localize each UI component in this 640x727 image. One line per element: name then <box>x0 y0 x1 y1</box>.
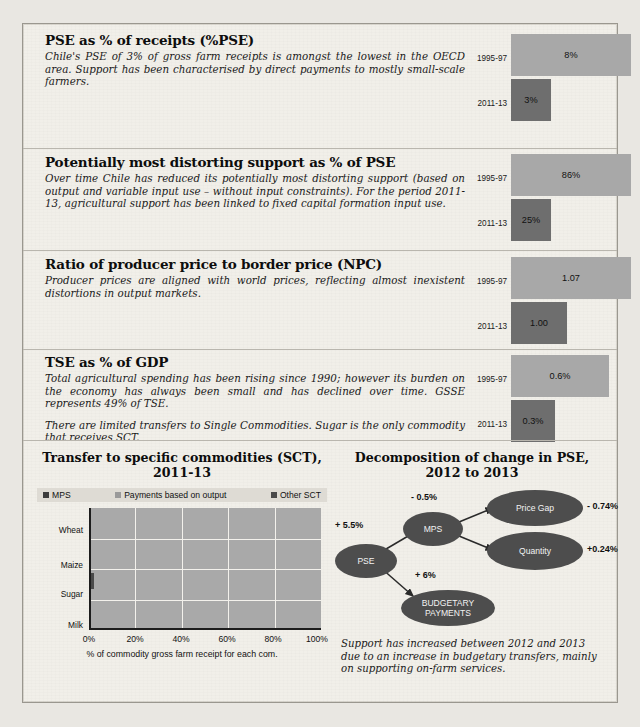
edge-label-quantity: +0.24% <box>587 544 618 554</box>
sct-ytick-milk: Milk <box>37 620 83 630</box>
gridline-horizontal <box>89 600 321 601</box>
gridline-horizontal <box>89 569 321 570</box>
decomposition-footnote: Support has increased between 2012 and 2… <box>341 638 607 676</box>
decomposition-diagram: PSE MPS BUDGETARY PAYMENTS Price Gap Qua… <box>335 488 609 638</box>
edge-label-to-mps: - 0.5% <box>411 492 437 502</box>
node-pse: PSE <box>335 544 397 578</box>
divider-4 <box>23 440 617 441</box>
pse-bar-2011: 3% <box>511 79 551 121</box>
npc-bar-value-1995: 1.07 <box>511 273 631 283</box>
distorting-bar-2011: 25% <box>511 199 551 241</box>
tse-title: TSE as % of GDP <box>45 354 465 370</box>
page-title: PSE as % of receipts (%PSE) <box>45 32 465 48</box>
tse-bar-chart: 1995-97 0.6% 2011-13 0.3% <box>465 354 625 459</box>
edge-label-pse-total: + 5.5% <box>335 520 363 530</box>
distorting-bar-chart: 1995-97 86% 2011-13 25% <box>465 154 625 254</box>
tse-text: TSE as % of GDP Total agricultural spend… <box>45 354 465 444</box>
sct-legend: MPS Payments based on output Other SCT <box>37 488 327 502</box>
sct-xtick-80: 80% <box>264 634 281 644</box>
tse-bar-label-2011: 2011-13 <box>465 420 507 429</box>
sct-xtick-60: 60% <box>218 634 235 644</box>
pse-description: Chile's PSE of 3% of gross farm receipts… <box>45 50 465 88</box>
node-mps: MPS <box>403 512 463 546</box>
sct-xtick-100: 100% <box>306 634 328 644</box>
distorting-bar-label-2011: 2011-13 <box>465 219 507 228</box>
pse-bar-1995: 8% <box>511 34 631 76</box>
sct-x-axis <box>89 628 321 630</box>
legend-label-mps: MPS <box>52 490 71 500</box>
legend-item-mps: MPS <box>43 490 71 500</box>
sct-x-axis-title: % of commodity gross farm receipt for ea… <box>37 649 327 659</box>
edge-label-price-gap: - 0.74% <box>587 501 618 511</box>
pse-text: PSE as % of receipts (%PSE) Chile's PSE … <box>45 32 465 88</box>
indicator-block-distorting: Potentially most distorting support as %… <box>23 154 617 254</box>
npc-text: Ratio of producer price to border price … <box>45 256 465 299</box>
distorting-title: Potentially most distorting support as %… <box>45 154 465 170</box>
tse-bar-label-1995: 1995-97 <box>465 375 507 384</box>
indicator-block-npc: Ratio of producer price to border price … <box>23 256 617 356</box>
legend-swatch-payments <box>115 492 121 498</box>
legend-item-payments: Payments based on output <box>115 490 226 500</box>
edge-label-to-budget: + 6% <box>415 570 436 580</box>
distorting-text: Potentially most distorting support as %… <box>45 154 465 210</box>
node-budgetary-payments: BUDGETARY PAYMENTS <box>401 590 495 626</box>
npc-bar-chart: 1995-97 1.07 2011-13 1.00 <box>465 256 625 356</box>
distorting-bar-value-1995: 86% <box>511 170 631 180</box>
npc-title: Ratio of producer price to border price … <box>45 256 465 272</box>
tse-bar-value-2011: 0.3% <box>511 416 555 426</box>
tse-bar-value-1995: 0.6% <box>511 371 609 381</box>
npc-description: Producer prices are aligned with world p… <box>45 274 465 299</box>
divider-2 <box>23 250 617 251</box>
sct-ytick-wheat: Wheat <box>37 525 83 535</box>
decomposition-title-line1: Decomposition of change in PSE, <box>335 450 609 465</box>
npc-bar-label-1995: 1995-97 <box>465 277 507 286</box>
tse-bar-1995: 0.6% <box>511 355 609 397</box>
npc-bar-label-2011: 2011-13 <box>465 322 507 331</box>
decomposition-title-line2: 2012 to 2013 <box>335 465 609 480</box>
sct-panel: Transfer to specific commodities (SCT), … <box>37 450 327 659</box>
sct-title-line1: Transfer to specific commodities (SCT), <box>37 450 327 465</box>
indicator-block-pse: PSE as % of receipts (%PSE) Chile's PSE … <box>23 32 617 142</box>
pse-bar-value-2011: 3% <box>511 95 551 105</box>
gridline-horizontal <box>89 539 321 540</box>
pse-bar-chart: 1995-97 8% 2011-13 3% <box>465 32 625 142</box>
legend-label-payments: Payments based on output <box>124 490 226 500</box>
divider-3 <box>23 349 617 350</box>
sct-plot-area <box>89 508 321 630</box>
distorting-bar-1995: 86% <box>511 154 631 196</box>
fact-sheet-page: PSE as % of receipts (%PSE) Chile's PSE … <box>22 23 618 703</box>
npc-bar-1995: 1.07 <box>511 257 631 299</box>
sct-xtick-40: 40% <box>172 634 189 644</box>
sct-title-line2: 2011-13 <box>37 465 327 480</box>
legend-label-other: Other SCT <box>280 490 321 500</box>
pse-bar-label-2011: 2011-13 <box>465 99 507 108</box>
distorting-bar-value-2011: 25% <box>511 215 551 225</box>
node-quantity: Quantity <box>487 532 583 570</box>
decomposition-panel: Decomposition of change in PSE, 2012 to … <box>335 450 609 638</box>
npc-bar-value-2011: 1.00 <box>511 318 567 328</box>
sct-xtick-0: 0% <box>83 634 95 644</box>
distorting-bar-label-1995: 1995-97 <box>465 174 507 183</box>
distorting-description: Over time Chile has reduced its potentia… <box>45 172 465 210</box>
indicator-block-tse: TSE as % of GDP Total agricultural spend… <box>23 354 617 459</box>
legend-swatch-other <box>271 492 277 498</box>
sct-chart: Wheat Maize Sugar Milk 0% 20% 40% 60% 80… <box>37 508 327 648</box>
sct-ytick-maize: Maize <box>37 560 83 570</box>
pse-bar-value-1995: 8% <box>511 50 631 60</box>
legend-swatch-mps <box>43 492 49 498</box>
sct-y-axis <box>89 508 91 630</box>
npc-bar-2011: 1.00 <box>511 302 567 344</box>
divider-1 <box>23 148 617 149</box>
sct-ytick-sugar: Sugar <box>37 589 83 599</box>
tse-bar-2011: 0.3% <box>511 400 555 442</box>
legend-item-other: Other SCT <box>271 490 321 500</box>
node-price-gap: Price Gap <box>487 490 583 526</box>
sct-xtick-20: 20% <box>126 634 143 644</box>
pse-bar-label-1995: 1995-97 <box>465 54 507 63</box>
tse-description: Total agricultural spending has been ris… <box>45 372 465 410</box>
